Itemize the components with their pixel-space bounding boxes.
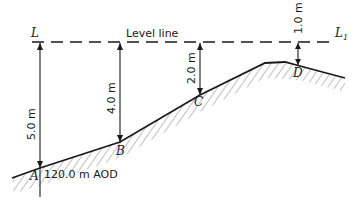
- level-line-end-label: L1: [334, 26, 348, 42]
- arrow-a-top: [37, 43, 43, 50]
- level-line-label: Level line: [126, 27, 179, 40]
- staff-reading-a: 5.0 m: [25, 108, 38, 140]
- point-label-a: A: [29, 169, 39, 183]
- point-label-b: B: [115, 144, 125, 158]
- elevation-label-a: 120.0 m AOD: [44, 168, 118, 181]
- levelling-diagram: L Level line L1 5.0 m 4.0 m 2.0 m 1.0 m …: [0, 0, 356, 204]
- level-line-start-label: L: [30, 26, 39, 40]
- arrow-c-top: [197, 43, 203, 50]
- staff-reading-b: 4.0 m: [105, 82, 118, 114]
- staff-reading-c: 2.0 m: [185, 52, 198, 84]
- point-label-c: C: [194, 95, 203, 109]
- staff-reading-d: 1.0 m: [292, 2, 305, 34]
- arrow-b-top: [117, 43, 123, 50]
- point-label-d: D: [292, 66, 303, 80]
- arrow-d-top: [295, 43, 301, 49]
